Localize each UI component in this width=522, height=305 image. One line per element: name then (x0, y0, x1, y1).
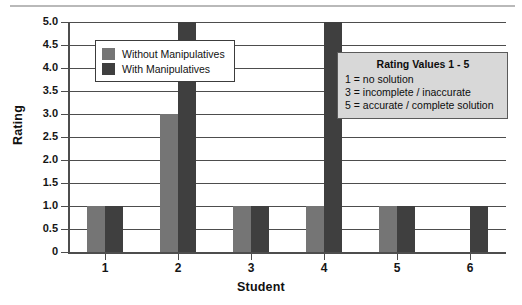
bar-3-series-a (233, 206, 251, 252)
legend-label-series-a: Without Manipulatives (122, 48, 225, 60)
bar-1-series-a (87, 206, 105, 252)
x-axis-line (68, 252, 506, 254)
x-axis-tick (324, 253, 325, 260)
rating-key-box: Rating Values 1 - 5 1 = no solution 3 = … (337, 52, 508, 119)
x-axis-tick-label: 1 (85, 262, 125, 275)
y-axis-tick-label: 4.5 (24, 39, 58, 50)
legend-swatch-icon-series-a (102, 48, 115, 60)
gridline (68, 137, 506, 138)
gridline (68, 183, 506, 184)
x-axis-tick-label: 3 (231, 262, 271, 275)
bar-3-series-b (251, 206, 269, 252)
x-axis-tick (251, 253, 252, 260)
rating-key-title: Rating Values 1 - 5 (345, 58, 501, 71)
bar-6-series-b (470, 206, 488, 252)
bar-5-series-a (379, 206, 397, 252)
y-axis-tick-label: 2.0 (24, 154, 58, 165)
legend-swatch-icon-series-b (102, 63, 115, 75)
y-axis-tick-label: 2.5 (24, 131, 58, 142)
y-axis-tick-label: 3.5 (24, 85, 58, 96)
x-axis-tick-label: 4 (304, 262, 344, 275)
legend-item-series-b: With Manipulatives (102, 61, 225, 76)
x-axis-title: Student (0, 280, 522, 294)
bar-5-series-b (397, 206, 415, 252)
y-axis-tick-label: 3.0 (24, 108, 58, 119)
gridline (68, 206, 506, 207)
y-axis-tick-label: 1.5 (24, 177, 58, 188)
gridline (68, 160, 506, 161)
legend: Without Manipulatives With Manipulatives (95, 40, 235, 82)
y-axis-tick-label: 0.5 (24, 223, 58, 234)
bar-2-series-a (160, 114, 178, 252)
x-axis-tick-label: 2 (158, 262, 198, 275)
legend-item-series-a: Without Manipulatives (102, 46, 225, 61)
bar-1-series-b (105, 206, 123, 252)
rating-key-line-3: 5 = accurate / complete solution (345, 99, 501, 112)
rating-key-line-2: 3 = incomplete / inaccurate (345, 86, 501, 99)
rating-key-line-1: 1 = no solution (345, 73, 501, 86)
y-axis-title: Rating (11, 85, 25, 165)
x-axis-tick (397, 253, 398, 260)
x-axis-tick-label: 6 (450, 262, 490, 275)
x-axis-tick (470, 253, 471, 260)
y-axis-tick-label: 0 (24, 246, 58, 257)
x-axis-tick-label: 5 (377, 262, 417, 275)
gridline (68, 22, 506, 23)
bar-4-series-a (306, 206, 324, 252)
x-axis-tick (178, 253, 179, 260)
y-axis-tick-label: 4.0 (24, 62, 58, 73)
bar-chart: 5.04.54.03.53.02.52.01.51.00.50 123456 R… (0, 0, 522, 305)
y-axis-tick-label: 1.0 (24, 200, 58, 211)
gridline (68, 229, 506, 230)
legend-label-series-b: With Manipulatives (122, 63, 210, 75)
y-axis-line (68, 22, 70, 253)
x-axis-tick (105, 253, 106, 260)
plot-area: 5.04.54.03.53.02.52.01.51.00.50 123456 R… (0, 0, 522, 305)
y-axis-tick-label: 5.0 (24, 16, 58, 27)
